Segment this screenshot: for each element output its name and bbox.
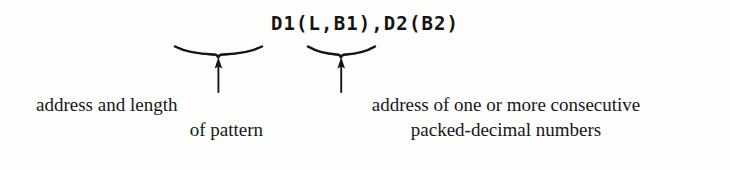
arrow-operand-2 — [337, 57, 345, 92]
arrow-operand-1 — [215, 57, 223, 92]
caption-operand-1-line-1: address and length — [18, 92, 263, 117]
caption-operand-1: address and length of pattern — [18, 92, 263, 142]
caption-operand-1-line-2: of pattern — [18, 117, 263, 142]
caption-operand-2: address of one or more consecutive packe… — [296, 92, 716, 142]
syntax-expression: D1(L,B1),D2(B2) — [0, 12, 730, 34]
operand-syntax-figure: D1(L,B1),D2(B2) address and length of pa… — [0, 0, 730, 170]
underbrace-operand-1 — [175, 47, 262, 58]
underbrace-operand-2 — [308, 47, 375, 58]
caption-operand-2-line-2: packed-decimal numbers — [296, 117, 716, 142]
caption-operand-2-line-1: address of one or more consecutive — [296, 92, 716, 117]
